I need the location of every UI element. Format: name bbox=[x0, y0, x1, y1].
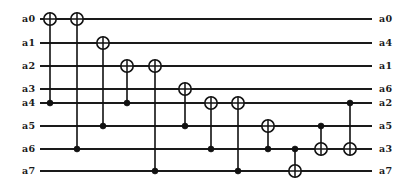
cnot-gate-11[interactable] bbox=[315, 123, 327, 155]
control-dot-icon[interactable] bbox=[347, 100, 353, 106]
control-dot-icon[interactable] bbox=[152, 168, 158, 174]
input-label-a2: a2 bbox=[22, 61, 35, 71]
control-dot-icon[interactable] bbox=[47, 100, 53, 106]
output-label-a0: a0 bbox=[379, 14, 392, 24]
output-label-a3: a3 bbox=[379, 144, 392, 154]
cnot-gate-1[interactable] bbox=[44, 13, 56, 106]
control-dot-icon[interactable] bbox=[318, 123, 324, 129]
input-label-a0: a0 bbox=[22, 14, 35, 24]
output-label-a4: a4 bbox=[379, 38, 392, 48]
output-label-a6: a6 bbox=[379, 84, 392, 94]
circuit-canvas bbox=[0, 0, 404, 189]
output-label-a5: a5 bbox=[379, 121, 392, 131]
input-label-a5: a5 bbox=[22, 121, 35, 131]
quantum-circuit-figure: a0a1a2a3a4a5a6a7 a0a4a1a6a2a5a3a7 bbox=[0, 0, 404, 189]
cnot-gate-5[interactable] bbox=[149, 60, 161, 174]
control-dot-icon[interactable] bbox=[208, 146, 214, 152]
input-label-a6: a6 bbox=[22, 144, 35, 154]
gates-group bbox=[44, 13, 356, 177]
output-label-a7: a7 bbox=[379, 166, 392, 176]
input-label-a3: a3 bbox=[22, 84, 35, 94]
cnot-gate-10[interactable] bbox=[289, 146, 301, 177]
control-dot-icon[interactable] bbox=[292, 146, 298, 152]
input-label-a7: a7 bbox=[22, 166, 35, 176]
control-dot-icon[interactable] bbox=[182, 123, 188, 129]
cnot-gate-7[interactable] bbox=[205, 97, 217, 152]
control-dot-icon[interactable] bbox=[100, 123, 106, 129]
output-label-a2: a2 bbox=[379, 98, 392, 108]
cnot-gate-9[interactable] bbox=[262, 120, 274, 152]
cnot-gate-6[interactable] bbox=[179, 83, 191, 129]
control-dot-icon[interactable] bbox=[265, 146, 271, 152]
cnot-gate-4[interactable] bbox=[121, 60, 133, 106]
cnot-gate-2[interactable] bbox=[71, 13, 83, 152]
input-label-a4: a4 bbox=[22, 98, 35, 108]
input-label-a1: a1 bbox=[22, 38, 35, 48]
cnot-gate-3[interactable] bbox=[97, 37, 109, 129]
control-dot-icon[interactable] bbox=[124, 100, 130, 106]
output-label-a1: a1 bbox=[379, 61, 392, 71]
control-dot-icon[interactable] bbox=[74, 146, 80, 152]
control-dot-icon[interactable] bbox=[235, 168, 241, 174]
cnot-gate-8[interactable] bbox=[232, 97, 244, 174]
cnot-gate-12[interactable] bbox=[344, 100, 356, 155]
